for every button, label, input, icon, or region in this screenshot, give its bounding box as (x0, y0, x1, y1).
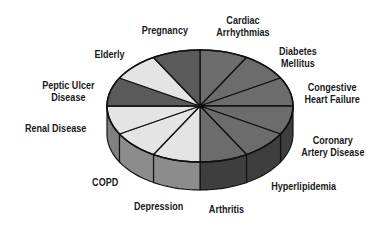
label-arthritis: Arthritis (209, 203, 244, 215)
pie-top-face (107, 50, 293, 162)
label-diabetes-mellitus: Diabetes Mellitus (279, 45, 317, 69)
label-depression: Depression (134, 200, 183, 212)
label-copd: COPD (92, 176, 118, 188)
label-coronary-artery-disease: Coronary Artery Disease (301, 134, 364, 158)
label-peptic-ulcer-disease: Peptic Ulcer Disease (42, 79, 94, 103)
pie-center-dot (198, 104, 202, 108)
label-congestive-heart-failure: Congestive Heart Failure (304, 81, 359, 105)
label-hyperlipidemia: Hyperlipidemia (271, 180, 336, 192)
pie-chart (0, 0, 388, 227)
label-cardiac-arrhythmias: Cardiac Arrhythmias (216, 14, 269, 38)
label-elderly: Elderly (94, 48, 124, 60)
label-pregnancy: Pregnancy (142, 24, 188, 36)
label-renal-disease: Renal Disease (25, 122, 86, 134)
